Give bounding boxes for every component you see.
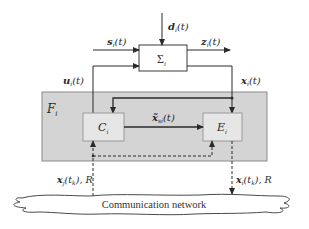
network-in-label: xj(tk), R bbox=[56, 174, 93, 187]
network-label: Communication network bbox=[102, 199, 207, 210]
network-out-label: xi(tk), R bbox=[235, 174, 272, 186]
state-x-label: xi(t) bbox=[240, 75, 261, 87]
output-z-label: zi(t) bbox=[200, 36, 221, 48]
block-diagram: Fi Σi di(t) si(t) zi(t) ui(t) xi(t) Ci E… bbox=[0, 0, 309, 229]
disturbance-label: di(t) bbox=[168, 21, 189, 33]
estimate-label: x̃si(t) bbox=[151, 112, 175, 124]
dashed-junction-dot bbox=[92, 155, 95, 158]
control-u-label: ui(t) bbox=[63, 75, 84, 87]
junction-dot bbox=[231, 97, 234, 100]
input-s-label: si(t) bbox=[107, 36, 126, 48]
